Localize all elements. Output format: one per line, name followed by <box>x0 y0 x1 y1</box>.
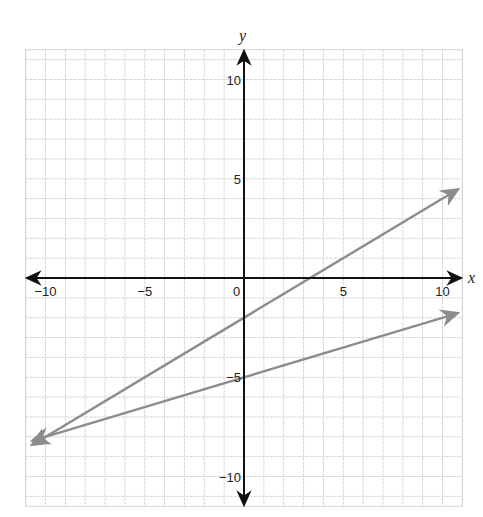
y-axis-label: y <box>237 27 247 45</box>
arrowhead-right-icon <box>439 188 461 206</box>
x-axis-label: x <box>467 269 475 286</box>
x-tick-label: 10 <box>435 284 449 299</box>
y-tick-label: −10 <box>219 470 241 485</box>
coordinate-plane: −10−50510105−5−10 x y <box>0 0 483 517</box>
y-tick-label: −5 <box>226 370 241 385</box>
x-tick-label: −5 <box>137 284 152 299</box>
x-tick-label: 0 <box>233 284 240 299</box>
y-tick-label: 5 <box>234 172 241 187</box>
x-tick-label: −10 <box>34 284 56 299</box>
y-tick-label: 10 <box>227 73 241 88</box>
axes <box>25 49 464 508</box>
x-tick-label: 5 <box>340 284 347 299</box>
